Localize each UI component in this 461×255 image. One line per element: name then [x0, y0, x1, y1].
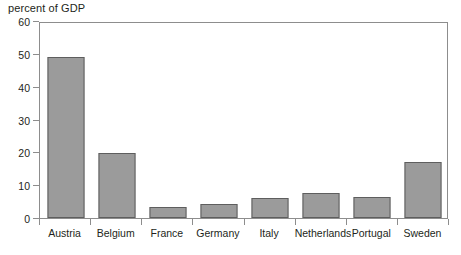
bar-portugal: [354, 197, 391, 218]
bar-italy: [252, 198, 289, 218]
y-tick-label: 10: [18, 178, 30, 194]
bar-slot: [347, 23, 398, 218]
x-axis-ticks: [39, 219, 448, 226]
bar-france: [149, 207, 186, 218]
bar-slot: [398, 23, 449, 218]
x-axis-label-austria: Austria: [39, 226, 90, 241]
bar-slot: [91, 23, 142, 218]
y-tick-label: 50: [18, 47, 30, 63]
x-axis-label-italy: Italy: [244, 226, 295, 241]
bar-germany: [200, 204, 237, 218]
x-tick-mark: [346, 219, 347, 225]
x-axis-label-netherlands: Netherlands: [295, 226, 346, 241]
bar-netherlands: [303, 193, 340, 218]
plot-area: [39, 22, 448, 219]
x-axis-label-portugal: Portugal: [346, 226, 397, 241]
bar-chart-figure: percent of GDP 0102030405060 AustriaBelg…: [0, 0, 461, 255]
y-tick-label: 0: [24, 211, 30, 227]
y-tick-label: 20: [18, 145, 30, 161]
x-tick-mark: [397, 219, 398, 225]
bar-slot: [142, 23, 193, 218]
bar-slot: [40, 23, 91, 218]
x-axis-labels: AustriaBelgiumFranceGermanyItalyNetherla…: [39, 226, 448, 246]
y-axis: 0102030405060: [0, 0, 39, 219]
x-axis-label-belgium: Belgium: [90, 226, 141, 241]
bar-slot: [245, 23, 296, 218]
x-axis-label-france: France: [141, 226, 192, 241]
y-tick-label: 60: [18, 14, 30, 30]
x-tick-mark: [295, 219, 296, 225]
bars-layer: [40, 23, 447, 218]
bar-austria: [47, 57, 84, 218]
x-tick-mark: [192, 219, 193, 225]
bar-belgium: [98, 153, 135, 218]
x-tick-mark: [39, 219, 40, 225]
x-axis-label-sweden: Sweden: [397, 226, 448, 241]
bar-sweden: [405, 162, 442, 218]
x-tick-mark: [448, 219, 449, 225]
bar-slot: [296, 23, 347, 218]
x-tick-mark: [141, 219, 142, 225]
x-tick-mark: [90, 219, 91, 225]
x-tick-mark: [244, 219, 245, 225]
x-axis-label-germany: Germany: [192, 226, 243, 241]
y-tick-label: 30: [18, 113, 30, 129]
y-tick-label: 40: [18, 80, 30, 96]
bar-slot: [193, 23, 244, 218]
